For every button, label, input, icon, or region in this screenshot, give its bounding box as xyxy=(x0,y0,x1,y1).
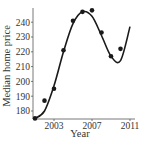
chart: 180190200210220230240 200320072011 Media… xyxy=(0,0,154,149)
data-point xyxy=(118,47,123,52)
y-tick-label: 180 xyxy=(16,106,31,116)
y-tick-label: 200 xyxy=(16,77,31,87)
y-tick-label: 210 xyxy=(16,62,31,72)
data-point xyxy=(61,48,66,53)
y-tick-label: 240 xyxy=(16,18,31,28)
y-tick-label: 190 xyxy=(16,92,31,102)
data-points xyxy=(33,8,123,121)
data-point xyxy=(71,18,76,23)
x-axis-label: Year xyxy=(70,128,90,139)
data-point xyxy=(52,87,57,92)
data-point xyxy=(109,54,114,59)
data-point xyxy=(99,30,104,35)
y-axis: 180190200210220230240 xyxy=(16,8,33,119)
data-point xyxy=(90,8,95,13)
x-tick-label: 2003 xyxy=(45,121,64,131)
data-point xyxy=(33,116,38,121)
y-tick-label: 230 xyxy=(16,32,31,42)
y-axis-label: Median home price xyxy=(1,25,12,107)
fitted-curve xyxy=(35,11,130,118)
data-point xyxy=(80,10,85,15)
data-point xyxy=(42,98,47,103)
y-tick-label: 220 xyxy=(16,47,31,57)
x-tick-label: 2011 xyxy=(121,121,140,131)
